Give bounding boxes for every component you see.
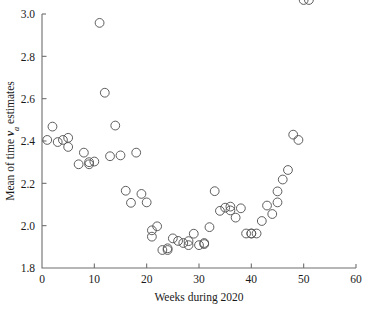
data-point <box>273 198 282 207</box>
y-axis-title-text: Mean of time va estimates <box>4 81 21 201</box>
axis-spines <box>42 14 356 268</box>
x-tick-label-40: 40 <box>246 273 258 285</box>
y-tick-label-2-4: 2.4 <box>21 135 36 147</box>
x-tick-label-30: 30 <box>193 273 205 285</box>
data-point <box>48 122 57 131</box>
y-tick-label-2-2: 2.2 <box>21 178 36 190</box>
data-point <box>79 148 88 157</box>
data-point <box>85 160 94 169</box>
data-point <box>231 213 240 222</box>
data-point <box>53 138 62 147</box>
data-point <box>116 151 125 160</box>
x-tick-label-50: 50 <box>298 273 310 285</box>
data-point <box>263 201 272 210</box>
y-axis-title: Mean of time va estimates <box>4 81 21 201</box>
data-point <box>210 187 219 196</box>
plot-canvas: 0102030405060 1.82.02.22.42.62.83.0 Week… <box>0 0 369 314</box>
data-point <box>100 88 109 97</box>
data-point <box>294 136 303 145</box>
y-title-suffix: estimates <box>4 81 16 127</box>
x-tick-label-20: 20 <box>141 273 153 285</box>
data-point <box>289 130 298 139</box>
data-point <box>127 198 136 207</box>
data-point <box>74 160 83 169</box>
y-title-prefix: Mean of time <box>4 136 16 201</box>
data-point <box>247 229 256 238</box>
data-point <box>43 136 52 145</box>
data-point <box>179 239 188 248</box>
data-point <box>189 229 198 238</box>
y-tick-label-2: 2.0 <box>21 220 36 232</box>
data-point <box>236 204 245 213</box>
data-point <box>137 190 146 199</box>
data-point <box>142 198 151 207</box>
data-point <box>111 121 120 130</box>
data-point <box>268 210 277 219</box>
plot-axes <box>42 14 356 268</box>
x-axis-ticks <box>94 264 303 269</box>
data-point <box>252 229 261 238</box>
data-point <box>148 232 157 241</box>
x-tick-label-10: 10 <box>89 273 101 285</box>
y-tick-label-1-8: 1.8 <box>21 262 36 274</box>
data-point-markers <box>43 0 313 254</box>
data-point <box>132 148 141 157</box>
scatter-plot-figure: 0102030405060 1.82.02.22.42.62.83.0 Week… <box>0 0 369 314</box>
data-point <box>257 217 266 226</box>
data-point <box>174 237 183 246</box>
data-point <box>158 246 167 255</box>
data-point <box>226 202 235 211</box>
x-axis-tick-labels: 0102030405060 <box>39 273 362 285</box>
data-point <box>216 206 225 215</box>
y-tick-label-2-8: 2.8 <box>21 51 36 63</box>
data-point <box>90 157 99 166</box>
data-point <box>106 152 115 161</box>
y-tick-label-3: 3.0 <box>21 8 36 20</box>
data-point <box>95 18 104 27</box>
y-tick-label-2-6: 2.6 <box>21 93 36 105</box>
x-tick-label-60: 60 <box>350 273 362 285</box>
data-point <box>121 186 130 195</box>
data-point <box>284 166 293 175</box>
x-axis-title-text: Weeks during 2020 <box>154 291 243 304</box>
data-point <box>205 223 214 232</box>
data-point <box>305 0 314 4</box>
x-tick-label-0: 0 <box>39 273 45 285</box>
data-point <box>273 187 282 196</box>
x-axis-title: Weeks during 2020 <box>154 291 243 304</box>
data-point <box>242 229 251 238</box>
data-point <box>168 234 177 243</box>
y-axis-tick-labels: 1.82.02.22.42.62.83.0 <box>21 8 36 274</box>
data-point <box>64 133 73 142</box>
data-point <box>64 143 73 152</box>
data-point <box>278 175 287 184</box>
